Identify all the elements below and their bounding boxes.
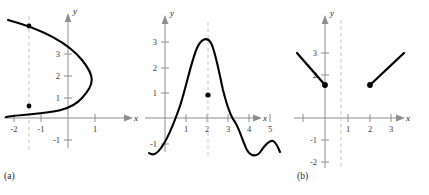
y-axis-label: y [329,8,334,18]
segment-falling [297,53,325,85]
chart-svg-a: -2 -1 1 3 2 1 -1 x y [0,0,143,168]
y-tick-label: 3 [56,49,60,59]
x-tick-label: 2 [368,124,372,134]
y-tick-label: 3 [313,48,317,58]
y-tick-label: -1 [310,135,317,145]
curve-damped-oscillation [149,39,280,155]
figure-root: -2 -1 1 3 2 1 -1 x y (a) [0,0,429,195]
y-tick-label: -1 [150,139,157,149]
x-tick-label: -1 [37,124,44,134]
chart-panel-c: 1 2 3 3 2 -1 -2 x y (c) [286,0,429,195]
axes-a [4,13,133,148]
chart-panel-a: -2 -1 1 3 2 1 -1 x y (a) [0,0,143,195]
x-tick-label: 4 [247,124,252,134]
axes-b [145,15,262,152]
x-tick-label: 1 [346,124,350,134]
y-tick-label: -1 [53,135,60,145]
axes-c [294,15,405,168]
y-tick-label: 1 [153,88,157,98]
panel-caption-a: (a) [4,171,15,181]
y-tick-label: 2 [153,63,157,73]
chart-panel-b: 1 2 3 4 5 3 2 1 -1 x y (b) [143,0,286,195]
x-tick-label: 1 [93,124,97,134]
y-axis-label: y [72,6,77,16]
x-tick-label: 3 [389,124,393,134]
marked-point [367,82,373,88]
y-tick-label: 1 [56,93,60,103]
marked-point [322,82,328,88]
x-axis-label: x [405,113,410,123]
marked-point [27,24,32,29]
x-axis-label: x [262,113,267,123]
marked-point [27,104,32,109]
y-axis-label: y [169,8,174,18]
chart-svg-c: 1 2 3 3 2 -1 -2 x y [286,0,429,168]
x-axis-label: x [133,113,138,123]
chart-svg-b: 1 2 3 4 5 3 2 1 -1 x y [143,0,286,168]
marked-point [205,92,210,97]
curve-leftward-parabola [6,20,92,117]
x-tick-label: 3 [226,124,230,134]
x-tick-label: 5 [268,124,272,134]
segment-rising [370,53,404,85]
y-tick-label: 2 [56,71,60,81]
y-tick-label: -2 [310,157,317,167]
y-tick-label: 3 [153,37,157,47]
x-tick-label: -2 [10,124,17,134]
x-tick-label: 1 [184,124,188,134]
